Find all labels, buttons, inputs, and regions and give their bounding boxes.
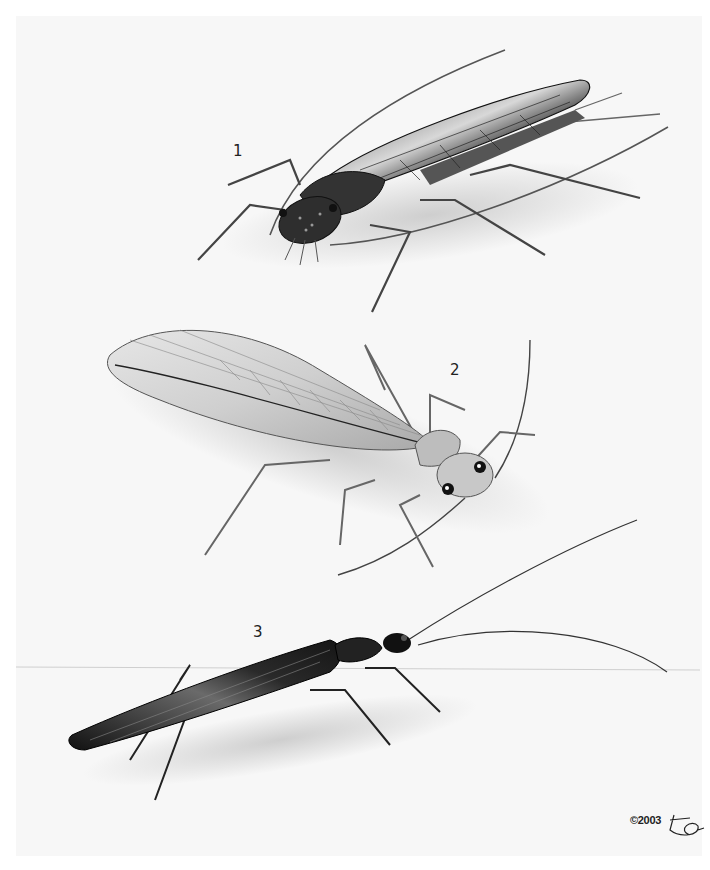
insect-2: [94, 322, 565, 575]
figure-label-2: 2: [450, 361, 460, 379]
insect-1: [198, 50, 668, 312]
signature-mark: [670, 815, 704, 835]
copyright-text: ©2003: [630, 814, 661, 826]
horizon-line: [16, 667, 700, 670]
figure-label-1: 1: [233, 142, 243, 160]
insect-3: [69, 520, 667, 804]
insect-illustrations: [0, 0, 710, 870]
figure-label-3: 3: [253, 623, 263, 641]
